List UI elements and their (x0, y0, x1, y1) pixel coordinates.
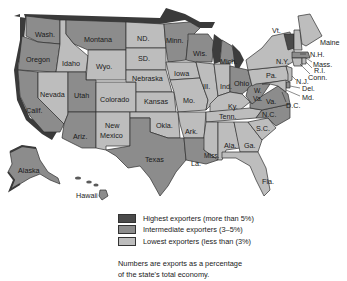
legend-swatch-intermediate (118, 225, 136, 234)
label-miss: Miss. (204, 152, 220, 159)
leader-del (290, 86, 300, 88)
legend-row-intermediate: Intermediate exporters (3–5%) (118, 225, 254, 235)
hawaii-island-3 (93, 184, 98, 187)
label-nh: N.H. (310, 50, 324, 59)
state-florida (222, 152, 270, 196)
legend-label-lowest: Lowest exporters (less than (3%) (143, 237, 251, 246)
state-arizona (62, 112, 96, 148)
label-fla: Fla. (262, 177, 274, 186)
label-okla: Okla. (156, 121, 173, 130)
label-ohio: Ohio (234, 79, 249, 88)
footnote-line-2: of the state's total economy. (118, 269, 318, 280)
label-iowa: Iowa (174, 69, 189, 78)
label-new-mexico-1: New (105, 121, 120, 130)
label-sd: SD. (138, 54, 150, 63)
label-va: Va. (266, 97, 276, 106)
label-new-mexico-2: Mexico (100, 131, 123, 140)
state-maine (298, 14, 322, 46)
label-ill: Ill. (203, 82, 210, 91)
label-ariz: Ariz. (73, 132, 87, 141)
map-legend: Highest exporters (more than 5%) Interme… (118, 213, 254, 248)
label-ind: Ind. (220, 82, 232, 91)
footnote-line-1: Numbers are exports as a percentage (118, 258, 318, 269)
label-ny: N.Y. (276, 57, 289, 66)
legend-label-intermediate: Intermediate exporters (3–5%) (143, 225, 243, 234)
legend-label-highest: Highest exporters (more than 5%) (143, 214, 254, 223)
label-ga: Ga. (244, 141, 256, 150)
label-vt: Vt. (272, 26, 281, 35)
label-md: Md. (302, 93, 314, 102)
label-alaska: Alaska (18, 166, 40, 175)
state-massachusetts (292, 52, 310, 58)
label-wis: Wis. (193, 49, 207, 58)
label-kansas: Kansas (144, 97, 168, 106)
state-delaware (286, 82, 290, 88)
map-footnote: Numbers are exports as a percentage of t… (118, 258, 318, 280)
label-nc: N.C. (262, 110, 276, 119)
hawaii-island-2 (86, 180, 92, 183)
label-pa: Pa. (266, 71, 277, 80)
label-ark: Ark. (185, 127, 198, 136)
label-oregon: Oregon (26, 55, 50, 64)
label-wva-1: W. (254, 87, 262, 94)
label-wash: Wash. (35, 30, 55, 39)
label-texas: Texas (145, 155, 164, 164)
label-conn: Conn. (308, 73, 327, 82)
hawaii-island-1 (75, 176, 81, 179)
label-calif: Calif. (26, 106, 42, 115)
hawaii-big-island (99, 190, 108, 200)
label-montana: Montana (84, 35, 112, 44)
label-nd: ND. (137, 34, 149, 43)
label-nebraska: Nebraska (132, 74, 163, 83)
legend-row-highest: Highest exporters (more than 5%) (118, 213, 254, 223)
label-minn: Minn. (166, 36, 184, 45)
label-wva-2: Va. (253, 95, 263, 102)
label-dc: D.C. (286, 101, 300, 110)
label-maine: Maine (320, 38, 340, 47)
label-idaho: Idaho (62, 59, 80, 68)
label-ala: Ala. (224, 141, 236, 150)
label-ky: Ky. (228, 102, 238, 111)
legend-swatch-highest (118, 214, 136, 223)
state-rhode-island (302, 58, 306, 64)
leader-ri (306, 62, 312, 68)
label-tenn: Tenn. (219, 112, 237, 121)
label-nevada: Nevada (40, 90, 65, 99)
label-mich: Mich. (220, 57, 237, 66)
legend-row-lowest: Lowest exporters (less than (3%) (118, 236, 254, 246)
label-la: La. (191, 159, 201, 168)
label-utah: Utah (74, 91, 89, 100)
legend-swatch-lowest (118, 237, 136, 246)
label-wyo: Wyo. (96, 62, 112, 71)
label-mo: Mo. (183, 96, 195, 105)
label-del: Del. (302, 84, 315, 93)
label-sc: S.C. (256, 124, 270, 133)
label-hawaii: Hawaii (76, 191, 98, 200)
label-colorado: Colorado (100, 95, 129, 104)
